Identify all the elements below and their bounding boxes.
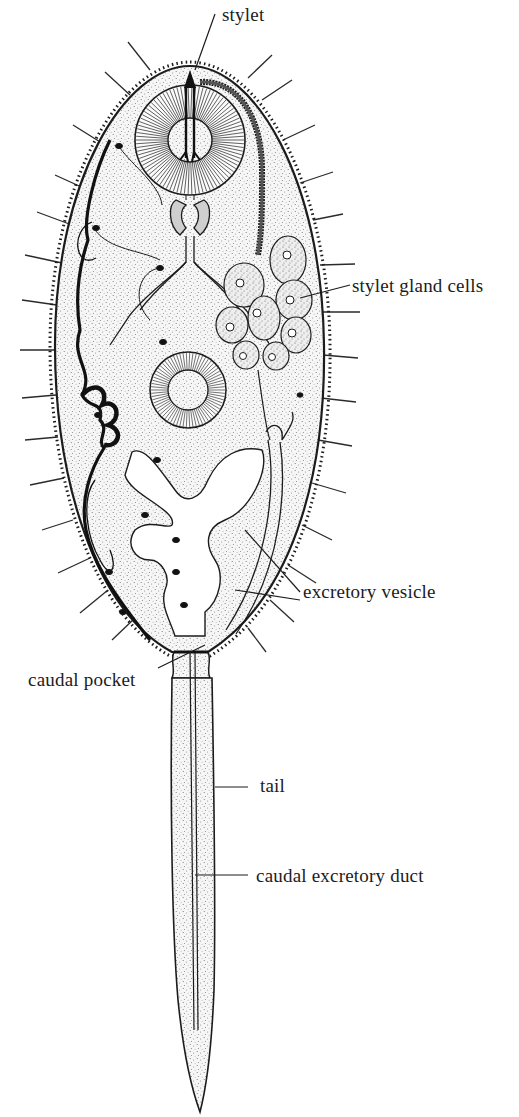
label-excretory-vesicle: excretory vesicle [303, 582, 436, 601]
label-stylet-gland-cells: stylet gland cells [352, 276, 483, 295]
label-caudal-pocket: caudal pocket [28, 670, 136, 689]
label-tail: tail [260, 776, 285, 795]
ventral-sucker [150, 352, 226, 428]
cercaria-illustration [0, 0, 519, 1117]
oral-sucker [135, 85, 245, 195]
caudal-pocket-structure [172, 652, 210, 678]
tail-structure [171, 652, 215, 1112]
label-caudal-excretory-duct: caudal excretory duct [256, 866, 424, 885]
cercaria-diagram: stylet stylet gland cells excretory vesi… [0, 0, 519, 1117]
label-stylet: stylet [222, 5, 264, 24]
